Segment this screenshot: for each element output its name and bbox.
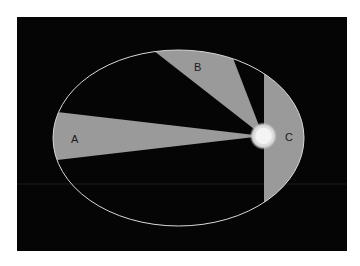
label-c: C xyxy=(285,131,293,143)
kepler-orbit-diagram: A B C xyxy=(0,0,360,266)
label-b: B xyxy=(194,61,201,73)
label-a: A xyxy=(71,133,79,145)
sun-icon xyxy=(255,127,273,145)
